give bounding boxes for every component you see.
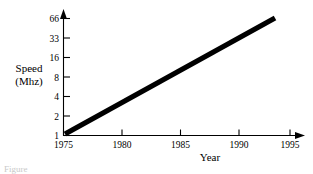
x-axis-arrow-icon (295, 132, 305, 139)
y-tick-label-66: 66 (50, 14, 60, 24)
y-axis-arrow-icon (60, 9, 67, 19)
y-tick-label-33: 33 (50, 34, 60, 44)
y-tick-label-4: 4 (54, 92, 59, 102)
data-line-processor-speed (65, 18, 275, 134)
x-tick-label-1975: 1975 (54, 140, 73, 150)
y-tick-label-2: 2 (54, 112, 59, 122)
y-axis-title-line1: Speed (16, 62, 43, 74)
y-tick-label-8: 8 (54, 73, 59, 83)
x-tick-label-1990: 1990 (230, 140, 249, 150)
figure-container: 66 33 16 8 4 2 1 1975 1980 1985 1990 199… (0, 0, 313, 174)
x-tick-label-1980: 1980 (113, 140, 132, 150)
figure-caption-fragment: Figure (4, 165, 28, 174)
y-tick-label-16: 16 (50, 53, 60, 63)
x-tick-label-1985: 1985 (171, 140, 190, 150)
y-axis-title-line2: (Mhz) (15, 75, 43, 88)
x-axis-title: Year (200, 151, 221, 163)
speed-vs-year-chart: 66 33 16 8 4 2 1 1975 1980 1985 1990 199… (0, 0, 313, 174)
x-tick-label-1995: 1995 (281, 140, 300, 150)
